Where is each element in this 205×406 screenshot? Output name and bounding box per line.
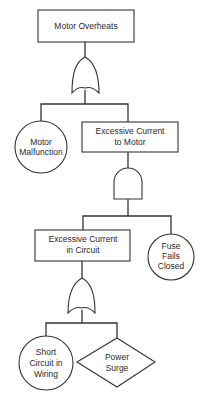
node-power-surge: Power Surge bbox=[77, 338, 155, 387]
node-label-line-1: Power bbox=[105, 352, 129, 362]
node-label-line-2: Fails bbox=[162, 251, 180, 261]
node-motor-malfunction: Motor Malfunction bbox=[15, 121, 67, 173]
node-fuse-fails-closed: Fuse Fails Closed bbox=[148, 234, 194, 280]
node-label-line-2: Surge bbox=[106, 363, 129, 373]
fault-tree-diagram: Motor Overheats Motor Malfunction Excess… bbox=[0, 0, 205, 406]
node-label-line-1: Short bbox=[36, 347, 57, 357]
node-label-line-2: in Circuit bbox=[66, 245, 100, 255]
node-label-line-1: Excessive Current bbox=[49, 234, 119, 244]
node-label-line-2: Circuit in bbox=[29, 358, 62, 368]
node-label-line-1: Motor bbox=[30, 137, 52, 147]
node-motor-overheats: Motor Overheats bbox=[38, 10, 134, 42]
connectors bbox=[41, 42, 171, 338]
node-label-line-1: Excessive Current bbox=[96, 126, 166, 136]
node-label-line-2: to Motor bbox=[114, 137, 145, 147]
node-excessive-current-in-circuit: Excessive Current in Circuit bbox=[35, 230, 130, 261]
or-gate-icon bbox=[72, 57, 99, 93]
node-label-line-1: Fuse bbox=[162, 241, 181, 251]
node-label-line-3: Wiring bbox=[34, 369, 58, 379]
node-excessive-current-to-motor: Excessive Current to Motor bbox=[82, 122, 178, 152]
or-gate-icon bbox=[68, 278, 95, 313]
node-label: Motor Overheats bbox=[54, 21, 117, 31]
node-short-circuit-in-wiring: Short Circuit in Wiring bbox=[19, 336, 73, 390]
connector-gate3-branches bbox=[46, 323, 117, 338]
and-gate-icon bbox=[114, 168, 142, 199]
node-label-line-3: Closed bbox=[158, 261, 185, 271]
connector-gate1-branches bbox=[41, 104, 128, 122]
node-label-line-2: Malfunction bbox=[19, 147, 63, 157]
